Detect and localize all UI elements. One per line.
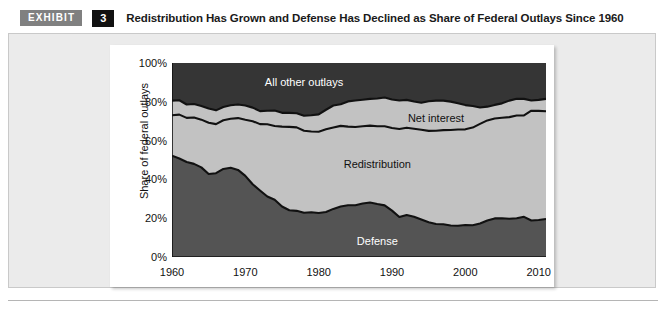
y-tick-label: 0%	[151, 251, 167, 263]
exhibit-header: EXHIBIT 3 Redistribution Has Grown and D…	[8, 5, 658, 31]
stacked-area-chart	[172, 63, 546, 257]
exhibit-title: Redistribution Has Grown and Defense Has…	[126, 12, 623, 24]
exhibit-number-badge: 3	[92, 10, 114, 27]
y-tick-label: 40%	[145, 173, 167, 185]
y-tick-label: 60%	[145, 135, 167, 147]
y-tick-label: 100%	[139, 57, 167, 69]
x-tick-label: 2000	[453, 266, 477, 278]
bottom-rule-divider	[8, 300, 658, 301]
x-tick-label: 1990	[380, 266, 404, 278]
x-tick-label: 1980	[306, 266, 330, 278]
plot-area: 0%20%40%60%80%100%1960197019801990200020…	[172, 63, 546, 257]
x-tick-label: 1960	[160, 266, 184, 278]
chart-card: Share of federal outlays 0%20%40%60%80%1…	[110, 45, 554, 287]
exhibit-badge-label: EXHIBIT	[20, 10, 82, 26]
y-tick-label: 20%	[145, 212, 167, 224]
x-tick-label: 2010	[526, 266, 550, 278]
y-tick-label: 80%	[145, 96, 167, 108]
x-tick-label: 1970	[233, 266, 257, 278]
